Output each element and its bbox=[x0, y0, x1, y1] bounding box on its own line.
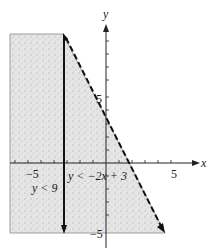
x-axis-label: x bbox=[200, 156, 207, 170]
y-axis-arrow-icon bbox=[103, 24, 109, 32]
x-tick-label-neg5: −5 bbox=[26, 167, 39, 181]
y-axis-label: y bbox=[102, 7, 109, 21]
shaded-solution-region bbox=[10, 34, 165, 233]
inequality-graph: x y −5 5 5 −5 y < 9 y < −2x + 3 bbox=[0, 0, 211, 252]
inequality-label-y-lt-neg2x-plus-3: y < −2x + 3 bbox=[67, 169, 127, 183]
inequality-label-y-lt-9: y < 9 bbox=[31, 181, 57, 195]
x-tick-label-5: 5 bbox=[171, 167, 177, 181]
y-tick-label-neg5: −5 bbox=[90, 227, 103, 241]
y-tick-label-5: 5 bbox=[96, 92, 102, 106]
x-axis-arrow-icon bbox=[192, 160, 200, 166]
